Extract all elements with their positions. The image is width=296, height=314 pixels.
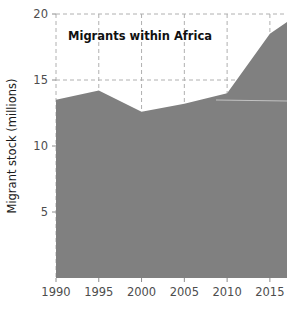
x-tick-label-2005: 2005 <box>170 285 199 299</box>
x-tick-label-1995: 1995 <box>84 285 113 299</box>
chart-figure: 5101520 199019952000200520102015 Migrant… <box>0 0 296 314</box>
y-tick-label-15: 15 <box>33 73 48 87</box>
x-tick-label-2015: 2015 <box>255 285 284 299</box>
y-axis-title: Migrant stock (millions) <box>5 78 19 213</box>
x-tick-label-1990: 1990 <box>41 285 70 299</box>
y-tick-label-5: 5 <box>41 205 48 219</box>
x-tick-label-2000: 2000 <box>127 285 156 299</box>
x-tick-label-2010: 2010 <box>212 285 241 299</box>
area-chart: 5101520 199019952000200520102015 Migrant… <box>0 0 296 314</box>
y-tick-label-20: 20 <box>33 7 48 21</box>
y-tick-label-10: 10 <box>33 139 48 153</box>
chart-title: Migrants within Africa <box>68 29 212 43</box>
